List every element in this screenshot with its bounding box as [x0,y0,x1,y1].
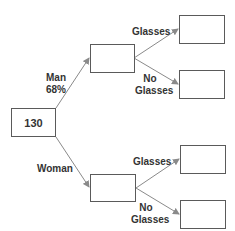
woman-box [90,174,136,202]
man-no-glasses-line2: Glasses [135,85,165,97]
man-glasses-box [179,15,225,44]
man-no-glasses-line1: No [135,73,165,85]
man-box [90,44,135,73]
man-no-glasses-label: No Glasses [135,73,165,97]
man-percent: 68% [46,84,68,96]
woman-no-glasses-line2: Glasses [131,214,161,226]
woman-no-glasses-label: No Glasses [131,202,161,226]
woman-no-glasses-box [180,200,226,229]
woman-no-glasses-line1: No [131,202,161,214]
man-label: Man [46,72,68,84]
woman-glasses-label: Glasses [133,156,171,168]
woman-glasses-box [180,145,226,174]
woman-branch-label: Woman [37,163,73,175]
man-no-glasses-box [179,70,225,99]
man-branch-label: Man 68% [46,72,68,96]
root-box: 130 [11,108,56,137]
man-glasses-label: Glasses [132,26,170,38]
